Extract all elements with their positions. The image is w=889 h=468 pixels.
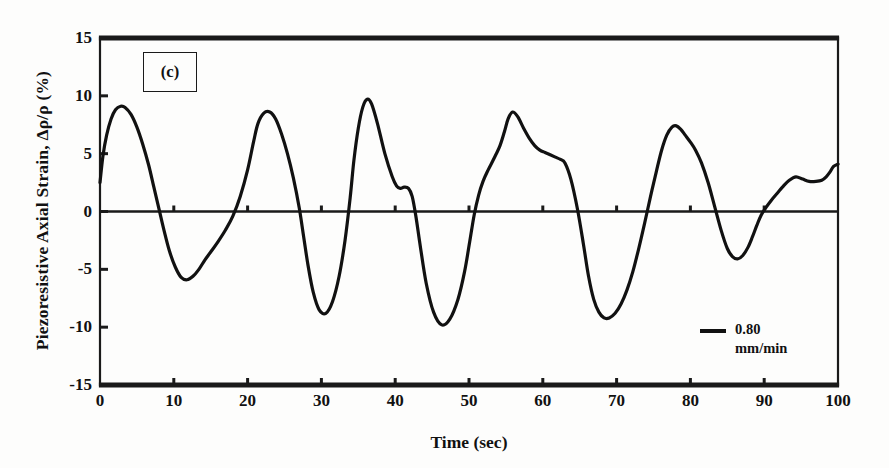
y-tick-label--15: -15 bbox=[48, 376, 92, 393]
chart-legend: 0.80 mm/min bbox=[700, 320, 787, 357]
panel-label-text: (c) bbox=[161, 62, 179, 82]
y-tick-label--10: -10 bbox=[48, 318, 92, 335]
x-axis-title: Time (sec) bbox=[100, 432, 838, 453]
x-tick-label-70: 70 bbox=[592, 392, 642, 409]
x-axis-tick-labels: 0102030405060708090100 bbox=[0, 392, 889, 418]
x-tick-label-100: 100 bbox=[813, 392, 863, 409]
x-tick-label-20: 20 bbox=[223, 392, 273, 409]
chart-figure: Piezoresistive Axial Strain, Δρ/ρ (%) 15… bbox=[0, 0, 889, 468]
x-tick-label-90: 90 bbox=[739, 392, 789, 409]
y-tick-label-0: 0 bbox=[48, 203, 92, 220]
legend-label: 0.80 mm/min bbox=[735, 320, 787, 357]
x-tick-label-80: 80 bbox=[665, 392, 715, 409]
y-tick-label--5: -5 bbox=[48, 260, 92, 277]
x-tick-label-10: 10 bbox=[149, 392, 199, 409]
x-tick-label-60: 60 bbox=[518, 392, 568, 409]
panel-label-box: (c) bbox=[143, 52, 197, 92]
y-tick-label-10: 10 bbox=[48, 87, 92, 104]
y-tick-label-15: 15 bbox=[48, 29, 92, 46]
y-tick-label-5: 5 bbox=[48, 145, 92, 162]
x-tick-label-50: 50 bbox=[444, 392, 494, 409]
legend-line-swatch bbox=[700, 329, 726, 333]
x-tick-label-40: 40 bbox=[370, 392, 420, 409]
x-tick-label-0: 0 bbox=[75, 392, 125, 409]
x-tick-label-30: 30 bbox=[296, 392, 346, 409]
